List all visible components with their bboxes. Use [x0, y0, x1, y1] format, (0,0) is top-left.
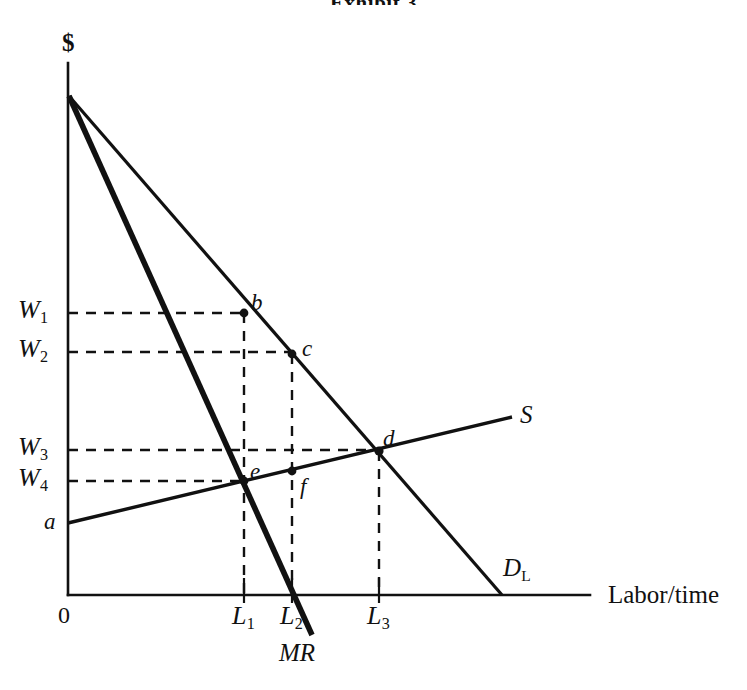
- x-axis-label: Labor/time: [608, 582, 719, 607]
- wage-tick-label-w3: W3: [18, 434, 48, 460]
- y-axis-label: $: [62, 30, 75, 55]
- figure-root: Exhibit 3: [0, 0, 747, 690]
- labor-tick-label-l2: L2: [280, 603, 303, 629]
- labor-tick-label-l1: L1: [232, 603, 255, 629]
- point-marker-e: [240, 477, 249, 486]
- curves-group: [68, 96, 512, 635]
- labor-tick-label-l3: L3: [367, 603, 390, 629]
- demand-curve-DL: [69, 96, 502, 595]
- marginal-revenue-curve-MR: [69, 96, 312, 635]
- point-label-b: b: [251, 291, 263, 314]
- wage-tick-label-w1: W1: [18, 297, 48, 323]
- curve-label-supply: S: [520, 402, 533, 427]
- point-label-e: e: [250, 460, 260, 483]
- point-label-c: c: [302, 337, 312, 360]
- point-label-a: a: [44, 510, 56, 533]
- origin-label: 0: [58, 603, 70, 627]
- axes-group: [68, 63, 590, 595]
- curve-label-marginal-revenue: MR: [279, 640, 315, 665]
- point-marker-f: [288, 467, 297, 476]
- curve-label-demand: DL: [503, 555, 531, 580]
- x-axis-ticks: [244, 578, 379, 603]
- point-marker-c: [288, 350, 297, 359]
- point-label-f: f: [300, 475, 306, 498]
- guide-lines-group: [68, 313, 379, 595]
- wage-tick-label-w4: W4: [18, 465, 48, 491]
- wage-tick-label-w2: W2: [18, 336, 48, 362]
- point-label-d: d: [383, 427, 395, 450]
- point-marker-b: [240, 309, 249, 318]
